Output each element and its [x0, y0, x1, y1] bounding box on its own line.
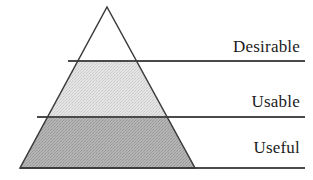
tier-label-usable: Usable [252, 93, 300, 110]
pyramid-diagram: Desirable Usable Useful [0, 0, 313, 180]
tier-label-desirable: Desirable [233, 38, 300, 55]
tier-label-useful: Useful [253, 139, 300, 156]
